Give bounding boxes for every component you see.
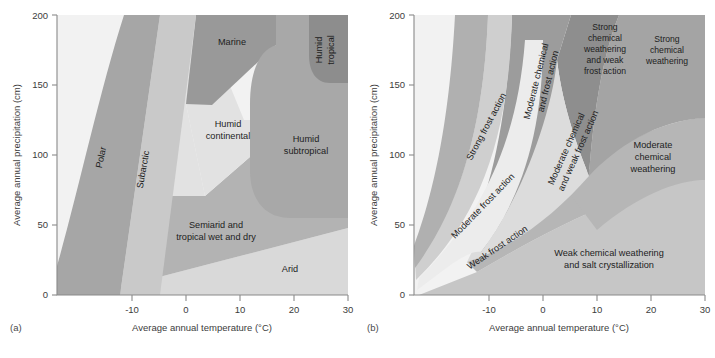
region-label-strong-chem-weak-frost-5: frost action — [584, 66, 626, 76]
panel-a-ytick-100: 100 — [32, 149, 48, 160]
region-label-humid-tropical-2: tropical — [326, 35, 336, 65]
panel-b-tag: (b) — [367, 322, 379, 333]
panel-b-weathering-regions: 0 50 100 150 200 -10 0 10 20 30 Average … — [357, 0, 715, 358]
panel-a-ylabel: Average annual precipitation (cm) — [11, 84, 22, 226]
panel-b-xtick-20: 20 — [646, 304, 657, 315]
region-label-moderate-chemical-weathering-3: weathering — [630, 164, 676, 174]
panel-b-ytick-100: 100 — [389, 149, 405, 160]
region-label-arid: Arid — [282, 264, 298, 274]
panel-a-climate-regions: 0 50 100 150 200 -10 0 10 20 30 Average … — [0, 0, 358, 358]
region-label-humid-subtropical-2: subtropical — [284, 146, 328, 156]
panel-b-chart: 0 50 100 150 200 -10 0 10 20 30 Average … — [357, 0, 715, 358]
panel-a-ytick-50: 50 — [37, 219, 48, 230]
region-label-semiarid-2: tropical wet and dry — [176, 232, 256, 242]
panel-b-ytick-200: 200 — [389, 10, 405, 21]
region-label-humid-subtropical: Humid — [293, 134, 320, 144]
region-label-moderate-chemical-weathering-2: chemical — [635, 152, 671, 162]
region-label-humid-continental: Humid — [215, 119, 242, 129]
region-label-weak-chem-salt-2: and salt crystallization — [564, 260, 654, 270]
panel-a-ytick-0: 0 — [43, 289, 48, 300]
region-label-weak-chem-salt-1: Weak chemical weathering — [554, 248, 664, 258]
panel-a-xtick-0: 0 — [183, 304, 188, 315]
region-label-strong-chemical-weathering-2: chemical — [650, 45, 684, 55]
panel-a-xlabel: Average annual temperature (°C) — [132, 322, 272, 333]
panel-a-chart: 0 50 100 150 200 -10 0 10 20 30 Average … — [0, 0, 358, 358]
panel-b-xtick--10: -10 — [482, 304, 496, 315]
region-label-strong-chem-weak-frost-1: Strong — [592, 22, 618, 32]
region-label-strong-chemical-weathering-1: Strong — [654, 34, 680, 44]
panel-a-xtick--10: -10 — [125, 304, 139, 315]
region-label-semiarid: Semiarid and — [189, 220, 243, 230]
panel-b-ytick-50: 50 — [394, 219, 405, 230]
region-label-humid-tropical: Humid — [314, 37, 324, 64]
region-label-strong-chemical-weathering-3: weathering — [645, 56, 688, 66]
panel-a-xtick-20: 20 — [289, 304, 300, 315]
region-label-moderate-chemical-weathering-1: Moderate — [634, 140, 673, 150]
panel-a-ytick-200: 200 — [32, 10, 48, 21]
panel-a-tag: (a) — [10, 322, 22, 333]
panel-a-xtick-30: 30 — [343, 304, 354, 315]
region-label-strong-chem-weak-frost-2: chemical — [588, 33, 622, 43]
panel-b-ytick-0: 0 — [400, 289, 405, 300]
region-label-humid-continental-2: continental — [206, 131, 250, 141]
panel-b-ylabel: Average annual precipitation (cm) — [368, 84, 379, 226]
panel-b-xlabel: Average annual temperature (°C) — [489, 322, 629, 333]
panel-a-ytick-150: 150 — [32, 79, 48, 90]
region-label-strong-chem-weak-frost-4: and weak — [587, 55, 624, 65]
region-label-marine: Marine — [218, 37, 246, 47]
region-label-strong-chem-weak-frost-3: weathering — [583, 44, 626, 54]
panel-b-ytick-150: 150 — [389, 79, 405, 90]
panel-b-xtick-30: 30 — [700, 304, 711, 315]
panel-b-xtick-0: 0 — [540, 304, 545, 315]
climate-weathering-figure: 0 50 100 150 200 -10 0 10 20 30 Average … — [0, 0, 715, 358]
panel-a-xtick-10: 10 — [235, 304, 246, 315]
panel-b-xtick-10: 10 — [592, 304, 603, 315]
